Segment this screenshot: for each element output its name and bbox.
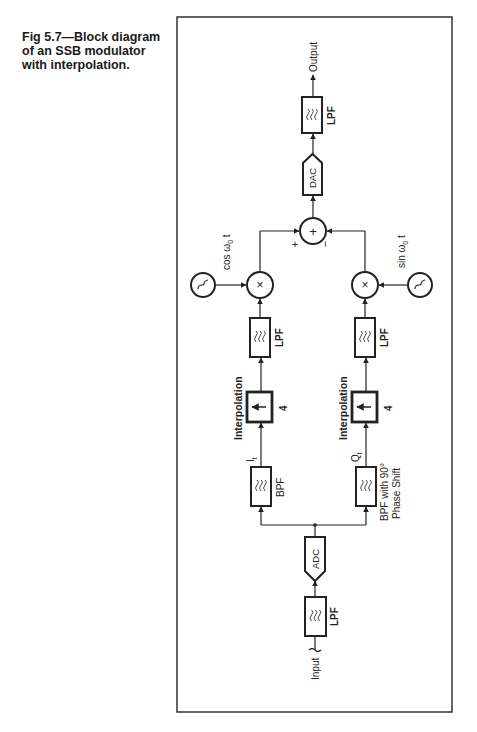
dac-block: DAC <box>303 154 322 195</box>
input-terminal <box>309 636 321 652</box>
summer-minus-sign: − <box>319 241 331 247</box>
adc-label: ADC <box>310 549 321 569</box>
input-lpf-block: LPF <box>305 597 340 636</box>
interpolation-q-label: Interpolation <box>337 376 349 440</box>
summer-symbol: + <box>309 224 317 239</box>
dac-label: DAC <box>307 168 318 188</box>
adc-block: ADC <box>305 537 325 581</box>
output-label: Output <box>308 42 319 72</box>
lpf-q-block: LPF <box>355 318 390 357</box>
q-signal-label: Qt <box>350 452 363 462</box>
sin-oscillator-label: sin ω0 t <box>396 235 409 268</box>
summer: + <box>300 218 326 244</box>
cos-oscillator <box>191 273 215 297</box>
bpf-q-label-2: Phase Shift <box>391 468 402 519</box>
interpolation-q-factor: 4 <box>383 405 394 411</box>
mixer-q: × <box>352 272 378 298</box>
lpf-i-block: LPF <box>250 318 285 357</box>
lpf-q-label: LPF <box>379 328 390 347</box>
summer-plus-sign: + <box>292 238 298 250</box>
input-lpf-label: LPF <box>329 607 340 626</box>
mixer-q-symbol: × <box>361 278 368 292</box>
sin-oscillator <box>408 273 432 297</box>
mixer-i: × <box>247 272 273 298</box>
input-label: Input <box>310 658 321 680</box>
bpf-i-label: BPF <box>275 478 286 497</box>
lpf-i-label: LPF <box>274 328 285 347</box>
output-lpf-label: LPF <box>326 106 337 125</box>
bpf-q-label-1: BPF with 90° <box>379 463 390 521</box>
bpf-i-block: BPF <box>251 467 286 506</box>
bpf-q-block: BPF with 90° Phase Shift <box>356 463 402 521</box>
output-lpf-block: LPF <box>302 97 337 133</box>
mixer-i-symbol: × <box>256 278 263 292</box>
interpolation-i-label: Interpolation <box>232 376 244 440</box>
block-diagram: Input LPF ADC BPF It Interpolation 4 LPF… <box>0 0 477 732</box>
i-signal-label: It <box>245 457 258 462</box>
cos-oscillator-label: cos ω0 t <box>221 234 234 270</box>
interpolation-i-factor: 4 <box>278 405 289 411</box>
